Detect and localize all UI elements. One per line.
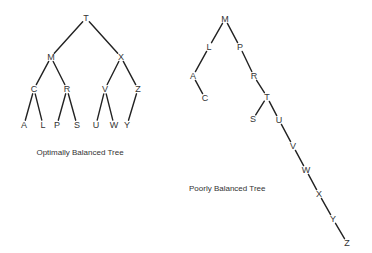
poor-node-Z: Z (344, 238, 350, 248)
optimal-node-P: P (54, 120, 60, 130)
poor-edge-X-Y (321, 198, 330, 214)
poor-tree-edges (195, 23, 344, 238)
poor-node-U: U (276, 115, 283, 125)
poor-node-S: S (250, 114, 256, 124)
optimal-edge-M-C (36, 61, 48, 84)
optimal-node-C: C (31, 84, 38, 94)
optimal-node-S: S (74, 120, 80, 130)
optimal-edge-V-W (106, 94, 113, 120)
poor-edge-L-A (195, 51, 206, 71)
optimal-edge-T-M (54, 22, 82, 54)
poor-edge-T-S (256, 101, 265, 115)
poor-node-C: C (202, 93, 209, 103)
optimal-edge-R-S (68, 94, 75, 120)
poor-node-L: L (206, 42, 211, 52)
poor-edge-W-X (308, 174, 316, 189)
poor-tree-nodes: MLPACRTSUVWXYZ (190, 14, 350, 248)
optimal-edge-T-X (89, 22, 117, 54)
optimal-tree-caption: Optimally Balanced Tree (36, 148, 124, 157)
poor-edge-M-P (227, 23, 237, 42)
optimal-edge-R-P (58, 94, 65, 120)
optimal-edge-V-U (97, 94, 104, 120)
optimal-edge-X-V (107, 62, 119, 85)
poor-edge-Y-Z (336, 223, 345, 238)
optimal-node-R: R (64, 84, 71, 94)
optimal-node-Z: Z (135, 84, 141, 94)
optimal-node-Y: Y (124, 120, 130, 130)
optimal-edge-Z-Y (129, 94, 137, 120)
optimal-node-U: U (93, 120, 100, 130)
optimal-edge-C-A (25, 94, 32, 120)
poor-node-P: P (237, 42, 243, 52)
poor-edge-R-T (257, 80, 265, 92)
optimal-edge-X-Z (123, 61, 135, 84)
poor-edge-U-V (281, 124, 290, 141)
optimal-edge-M-R (53, 62, 65, 85)
poor-node-T: T (264, 92, 270, 102)
poor-edge-V-W (295, 150, 303, 165)
optimal-edge-C-L (35, 94, 42, 120)
optimal-tree-nodes: TMXCRVZALPSUWY (21, 13, 141, 130)
poor-edge-T-U (269, 101, 276, 115)
poor-node-V: V (290, 141, 296, 151)
poor-edge-M-L (212, 23, 223, 42)
optimal-node-W: W (110, 120, 119, 130)
poorly-balanced-tree: MLPACRTSUVWXYZ Poorly Balanced Tree (189, 14, 350, 248)
optimal-node-X: X (118, 52, 124, 62)
optimal-node-V: V (102, 84, 108, 94)
optimal-node-A: A (21, 120, 27, 130)
optimally-balanced-tree: TMXCRVZALPSUWY Optimally Balanced Tree (21, 13, 141, 157)
optimal-node-M: M (47, 52, 55, 62)
diagram-svg: TMXCRVZALPSUWY Optimally Balanced Tree M… (0, 0, 372, 253)
poor-edge-A-C (195, 80, 202, 93)
poor-tree-caption: Poorly Balanced Tree (189, 184, 266, 193)
poor-node-M: M (221, 14, 229, 24)
poor-node-W: W (302, 165, 311, 175)
poor-node-X: X (316, 189, 322, 199)
optimal-node-L: L (40, 120, 45, 130)
poor-edge-P-R (242, 52, 252, 72)
poor-node-A: A (190, 71, 196, 81)
optimal-node-T: T (83, 13, 89, 23)
tree-comparison-diagram: TMXCRVZALPSUWY Optimally Balanced Tree M… (0, 0, 372, 253)
optimal-tree-edges (25, 22, 136, 121)
poor-node-R: R (251, 71, 258, 81)
poor-node-Y: Y (330, 214, 336, 224)
